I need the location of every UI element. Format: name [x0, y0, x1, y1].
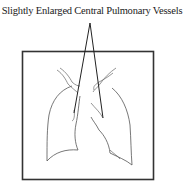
- left-lung-outline: [91, 88, 132, 165]
- right-hilar-vessel-lower: [60, 68, 80, 86]
- xray-frame: [23, 52, 154, 180]
- left-lower-vessel: [110, 150, 120, 159]
- pointer-line-right: [74, 23, 90, 113]
- right-hilar-vessel-upper: [57, 70, 78, 93]
- lung-diagram: [0, 0, 184, 184]
- right-lung-outline: [47, 86, 80, 161]
